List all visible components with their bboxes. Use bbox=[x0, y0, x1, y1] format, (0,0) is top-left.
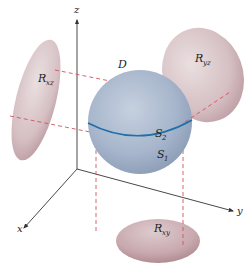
svg-text:2: 2 bbox=[161, 134, 167, 142]
svg-text:yz: yz bbox=[202, 59, 211, 67]
solid-label-d: D bbox=[117, 58, 127, 71]
svg-text:R: R bbox=[37, 72, 46, 85]
z-axis-label: z bbox=[73, 4, 80, 15]
svg-text:xy: xy bbox=[162, 229, 171, 237]
y-axis-label: y bbox=[236, 205, 243, 216]
x-axis-label: x bbox=[17, 223, 23, 234]
svg-text:R: R bbox=[194, 52, 203, 65]
svg-text:xz: xz bbox=[46, 79, 54, 87]
svg-text:R: R bbox=[153, 222, 162, 235]
solid-sphere bbox=[88, 70, 192, 174]
region-rxz bbox=[2, 35, 71, 165]
y-axis bbox=[77, 169, 233, 211]
svg-text:1: 1 bbox=[164, 155, 168, 163]
divergence-theorem-diagram: z x y D S 2 S 1 R xz R yz R xy bbox=[0, 0, 245, 270]
x-axis bbox=[24, 169, 77, 228]
projection-line-xz-top bbox=[55, 70, 115, 82]
